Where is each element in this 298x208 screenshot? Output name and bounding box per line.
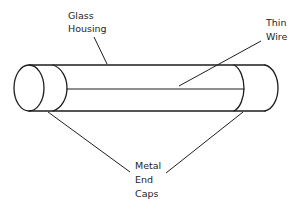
fuse-drawing bbox=[14, 65, 278, 111]
metal-end-caps-line3: Caps bbox=[135, 188, 158, 199]
metal-end-caps-line1: Metal bbox=[135, 160, 161, 171]
metal-end-caps-line2: End bbox=[135, 174, 153, 185]
left-cap-inner-edge bbox=[53, 65, 67, 111]
left-cap-leader bbox=[48, 112, 130, 172]
label-metal-end-caps: Metal End Caps bbox=[135, 160, 161, 199]
right-cap-end bbox=[265, 65, 278, 111]
right-cap-leader bbox=[166, 112, 243, 173]
leader-lines bbox=[48, 37, 261, 173]
thin-wire-leader bbox=[179, 41, 261, 86]
fuse-diagram: Glass Housing Thin Wire Metal End Caps bbox=[0, 0, 298, 208]
glass-housing-line2: Housing bbox=[68, 23, 107, 34]
label-glass-housing: Glass Housing bbox=[68, 10, 107, 34]
thin-wire-line1: Thin bbox=[265, 17, 286, 28]
left-cap-face bbox=[14, 65, 44, 111]
thin-wire-line2: Wire bbox=[266, 31, 288, 42]
right-cap-inner-edge bbox=[234, 65, 244, 111]
label-thin-wire: Thin Wire bbox=[265, 17, 288, 42]
glass-housing-line1: Glass bbox=[68, 10, 94, 21]
glass-housing-leader bbox=[94, 37, 107, 64]
